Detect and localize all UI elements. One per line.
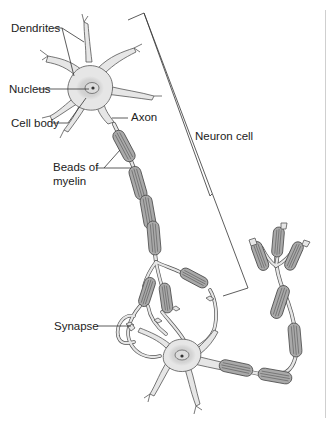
neuron-illustration [0,0,330,424]
label-beads-of-myelin-line2: myelin [53,175,86,188]
label-neuron-cell: Neuron cell [195,130,253,143]
label-nucleus: Nucleus [9,83,51,96]
label-synapse: Synapse [54,320,99,333]
page-edge-divider [325,10,326,418]
neuron-diagram: Dendrites Nucleus Cell body Axon Beads o… [0,0,330,424]
label-cell-body: Cell body [11,117,59,130]
label-axon: Axon [131,111,157,124]
label-dendrites: Dendrites [11,22,60,35]
label-beads-of-myelin-line1: Beads of [53,161,98,174]
